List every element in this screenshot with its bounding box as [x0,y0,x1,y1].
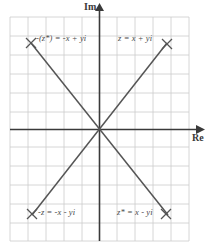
label-minus-z: -z = -x - yi [38,208,75,217]
marker-minus-z [27,209,37,219]
argand-diagram-figure: Im Re -(z*) = -x + yi z = x + yi -z = -x… [0,0,211,249]
marker-z [162,39,172,49]
imaginary-axis-label: Im [84,2,96,12]
marker-minus-z-conjugate [26,38,36,48]
imaginary-axis [95,3,104,241]
real-axis-label: Re [192,133,204,143]
marker-z-conjugate [161,209,171,219]
label-z: z = x + yi [118,34,152,43]
label-minus-z-conjugate: -(z*) = -x + yi [36,34,86,43]
real-axis [10,125,205,134]
label-z-conjugate: z* = x - yi [117,208,153,217]
argand-plot-canvas [0,0,211,249]
